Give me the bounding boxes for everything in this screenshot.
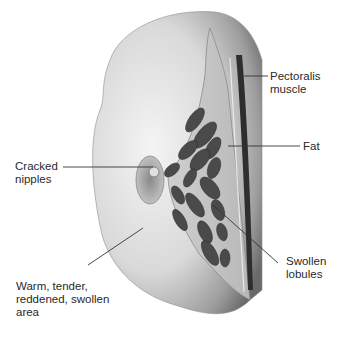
areola xyxy=(136,156,164,204)
mastitis-diagram: Pectoralis muscle Fat Cracked nipples Sw… xyxy=(0,0,344,348)
label-pectoralis-muscle: Pectoralis muscle xyxy=(270,70,321,96)
label-fat: Fat xyxy=(303,140,320,153)
nipple xyxy=(149,167,159,177)
label-cracked-nipples: Cracked nipples xyxy=(15,160,58,186)
label-swollen-lobules: Swollen lobules xyxy=(286,255,326,281)
label-warm-area: Warm, tender, reddened, swollen area xyxy=(16,280,109,319)
